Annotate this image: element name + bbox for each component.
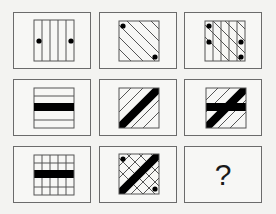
crosshatch-band-figure xyxy=(100,147,178,204)
cell-r3c1 xyxy=(13,146,91,203)
cell-r2c3 xyxy=(184,79,262,136)
vertical-lines-figure xyxy=(14,13,92,70)
cell-r1c2 xyxy=(99,12,177,69)
question-mark: ? xyxy=(185,147,261,202)
diagonal-lines-figure xyxy=(100,13,178,70)
cell-r1c3 xyxy=(184,12,262,69)
combined-band-figure xyxy=(185,80,263,137)
grid-band-figure xyxy=(14,147,92,204)
vertical-and-diagonal-lines-figure xyxy=(185,13,263,70)
cell-r3c3-unknown: ? xyxy=(184,146,262,203)
diagonal-band-figure xyxy=(100,80,178,137)
cell-r2c1 xyxy=(13,79,91,136)
cell-r3c2 xyxy=(99,146,177,203)
cell-r2c2 xyxy=(99,79,177,136)
horizontal-lines-band-figure xyxy=(14,80,92,137)
cell-r1c1 xyxy=(13,12,91,69)
